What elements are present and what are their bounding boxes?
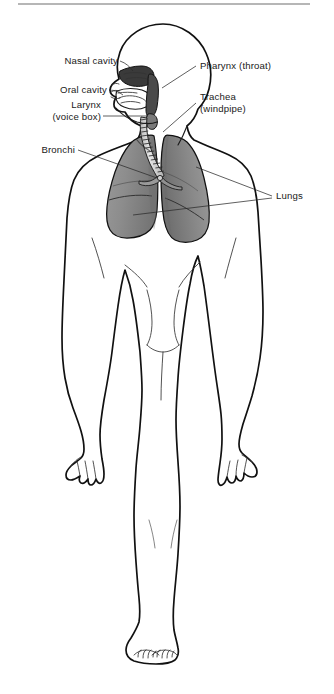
label-lungs: Lungs [276, 190, 303, 201]
label-trachea-line1: Trachea [200, 91, 236, 102]
carina-bifurcation [157, 175, 162, 180]
anatomy-illustration: Nasal cavity Oral cavity Larynx (voice b… [0, 0, 334, 694]
label-trachea-line2: (windpipe) [200, 103, 246, 114]
label-nasal-cavity: Nasal cavity [64, 55, 118, 66]
label-larynx-line1: Larynx [71, 99, 101, 110]
respiratory-system-figure: Nasal cavity Oral cavity Larynx (voice b… [0, 0, 334, 694]
label-pharynx: Pharynx (throat) [200, 60, 271, 71]
label-larynx-line2: (voice box) [52, 111, 101, 122]
label-oral-cavity: Oral cavity [60, 84, 107, 95]
label-bronchi: Bronchi [41, 144, 75, 155]
